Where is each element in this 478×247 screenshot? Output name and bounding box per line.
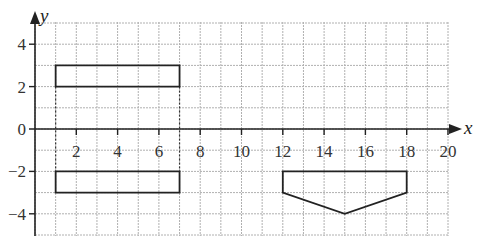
- x-tick-label: 12: [274, 142, 291, 161]
- axes: [29, 11, 462, 236]
- x-tick-label: 16: [357, 142, 374, 161]
- y-tick-label: −4: [8, 205, 27, 224]
- tick-labels: 2468101214161820420−2−4xy: [8, 5, 473, 224]
- x-tick-label: 14: [316, 142, 334, 161]
- x-tick-label: 18: [398, 142, 415, 161]
- x-tick-label: 2: [72, 142, 81, 161]
- coordinate-grid: 2468101214161820420−2−4xy: [0, 0, 478, 247]
- y-tick-label: 4: [18, 35, 27, 54]
- x-tick-label: 4: [113, 142, 122, 161]
- x-tick-label: 6: [155, 142, 164, 161]
- y-tick-label: 0: [18, 120, 27, 139]
- y-tick-label: 2: [18, 78, 27, 97]
- x-tick-label: 10: [233, 142, 250, 161]
- x-tick-label: 20: [440, 142, 457, 161]
- x-tick-label: 8: [196, 142, 205, 161]
- x-axis-label: x: [463, 117, 473, 138]
- y-axis-label: y: [38, 5, 49, 26]
- y-tick-label: −2: [8, 162, 26, 181]
- y-axis-arrow-icon: [30, 11, 40, 24]
- x-axis-arrow-icon: [449, 124, 462, 134]
- shapes: [56, 65, 407, 213]
